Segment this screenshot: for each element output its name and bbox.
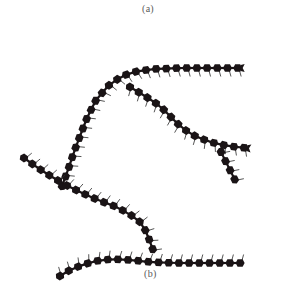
monomer-bead — [189, 130, 201, 141]
monomer-bead — [133, 87, 145, 98]
side-group-tick — [117, 199, 120, 204]
monomer-bead — [143, 258, 153, 266]
side-group-tick — [69, 176, 75, 177]
side-group-tick — [98, 192, 102, 196]
monomer-bead — [141, 66, 151, 74]
side-group-tick — [219, 71, 221, 77]
side-group-tick — [189, 71, 191, 77]
branch-upper-right — [124, 81, 251, 156]
monomer-bead — [223, 64, 232, 72]
side-group-tick — [112, 87, 116, 91]
side-group-tick — [234, 170, 240, 171]
branch-sub-right — [216, 146, 244, 185]
side-group-tick — [109, 251, 110, 257]
monomer-bead — [81, 113, 91, 124]
side-group-tick — [204, 143, 205, 149]
side-group-tick — [139, 74, 142, 79]
monomer-bead — [229, 174, 240, 185]
monomer-bead — [199, 135, 210, 145]
monomer-bead — [151, 65, 160, 73]
monomer-bead — [133, 257, 143, 265]
monomer-bead — [74, 132, 84, 143]
side-group-tick — [95, 109, 101, 110]
side-group-tick — [154, 107, 156, 112]
side-group-tick — [212, 255, 214, 261]
monomer-bead — [229, 142, 239, 150]
monomer-bead — [205, 259, 214, 267]
side-group-tick — [86, 128, 92, 129]
side-group-tick — [90, 118, 96, 119]
side-group-tick — [158, 72, 160, 77]
side-group-tick — [129, 91, 131, 96]
side-group-tick — [121, 81, 125, 85]
side-group-tick — [222, 255, 224, 261]
side-group-tick — [140, 253, 142, 258]
monomer-bead — [225, 165, 236, 176]
side-group-tick — [83, 137, 89, 138]
polymer-chains-drawing — [0, 0, 299, 287]
side-group-tick — [175, 128, 178, 133]
side-group-tick — [199, 71, 201, 77]
side-group-tick — [137, 96, 139, 101]
monomer-bead — [144, 234, 154, 245]
side-group-tick — [107, 196, 110, 201]
monomer-bead — [195, 259, 204, 267]
side-group-tick — [88, 188, 92, 192]
monomer-bead — [63, 265, 75, 276]
monomer-bead — [86, 104, 97, 115]
side-group-tick — [209, 71, 211, 77]
side-group-tick — [156, 249, 162, 250]
side-group-tick — [70, 179, 74, 183]
side-group-tick — [44, 164, 48, 168]
monomer-bead — [82, 259, 93, 269]
side-group-tick — [106, 93, 111, 95]
monomer-bead — [172, 64, 181, 72]
side-group-tick — [79, 184, 83, 188]
monomer-bead — [182, 64, 191, 72]
side-group-tick — [151, 254, 153, 259]
monomer-bead — [64, 161, 74, 172]
monomer-bead — [164, 259, 173, 267]
side-group-tick — [201, 255, 203, 261]
monomer-bead — [123, 256, 132, 264]
side-group-tick — [146, 101, 148, 106]
side-group-tick — [246, 151, 247, 157]
side-group-tick — [120, 251, 122, 256]
side-group-tick — [193, 139, 195, 144]
monomer-bead — [220, 155, 231, 166]
monomer-bead — [71, 142, 81, 153]
side-group-tick — [67, 262, 69, 267]
side-group-tick — [179, 71, 181, 76]
side-group-tick — [99, 252, 100, 258]
side-group-tick — [229, 160, 235, 161]
monomer-bead — [154, 258, 163, 266]
side-group-tick — [191, 255, 193, 261]
monomer-bead — [148, 243, 158, 254]
monomer-bead — [213, 64, 222, 72]
monomer-bead — [70, 185, 81, 196]
main-chain-upper — [57, 64, 245, 192]
side-group-tick — [167, 120, 170, 125]
side-group-tick — [148, 73, 150, 78]
side-group-tick — [171, 254, 173, 259]
side-group-tick — [27, 153, 31, 157]
side-group-tick — [161, 254, 163, 259]
monomer-bead — [117, 205, 128, 216]
side-group-tick — [236, 150, 237, 156]
monomer-bead — [93, 257, 103, 266]
monomer-bead — [78, 123, 88, 134]
monomer-bead — [162, 65, 171, 73]
side-group-tick — [181, 255, 183, 261]
monomer-bead — [67, 152, 77, 163]
polymer-chain-figure: (a) (b) — [0, 0, 299, 287]
monomer-bead — [113, 255, 122, 263]
side-group-tick — [129, 77, 132, 82]
chain-end-cap-icon — [241, 64, 245, 72]
side-group-tick — [232, 255, 234, 261]
side-group-tick — [130, 252, 132, 257]
side-group-tick — [242, 255, 244, 261]
monomer-bead — [215, 259, 224, 267]
monomer-bead — [225, 259, 234, 267]
side-group-tick — [143, 217, 148, 221]
monomer-bead — [185, 259, 194, 267]
